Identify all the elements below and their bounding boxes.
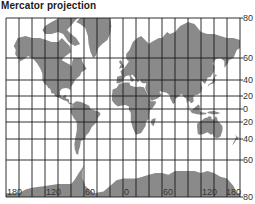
longitude-label: 180 [226, 187, 241, 197]
latitude-label: 20 [243, 91, 253, 101]
latitude-label: 60 [243, 155, 253, 165]
latitude-label: 60 [243, 53, 253, 63]
latitude-label: 40 [243, 75, 253, 85]
greenland [76, 18, 111, 58]
longitude-label: 180 [7, 187, 22, 197]
longitude-label: 60 [85, 187, 95, 197]
new-zealand [232, 134, 239, 145]
mercator-map: 8060402002040608018012060060120180 [0, 0, 255, 204]
latitude-label: 80 [243, 192, 253, 202]
british-isles [119, 60, 124, 69]
longitude-label: 120 [46, 187, 61, 197]
latitude-label: 80 [243, 13, 253, 23]
longitude-label: 60 [163, 187, 173, 197]
longitude-label: 0 [124, 187, 129, 197]
latitude-label: 40 [243, 134, 253, 144]
latitude-label: 0 [243, 104, 248, 114]
longitude-label: 120 [202, 187, 217, 197]
southeast-asia-islands [185, 105, 221, 115]
north-america [14, 36, 87, 105]
latitude-label: 20 [243, 117, 253, 127]
